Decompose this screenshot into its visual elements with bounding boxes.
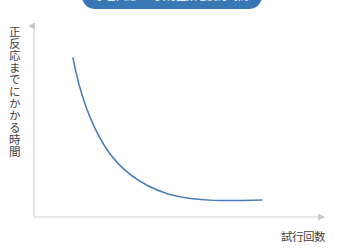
learning-curve-figure: 学習曲線 ― 試行回数と反応時間 正反応までにかかる時間 試行回数 [0,0,342,249]
chart-plot-area [0,0,342,249]
x-axis-title: 試行回数 [281,228,325,244]
y-axis-title: 正反応までにかかる時間 [3,26,20,158]
learning-curve-line [73,58,262,201]
